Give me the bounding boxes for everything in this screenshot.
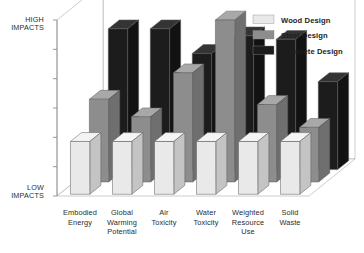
- category-label-4-line1: Water: [196, 208, 216, 217]
- legend-swatch-wood: [253, 15, 274, 24]
- bar-6-wood-side: [300, 133, 311, 195]
- bar-1-wood-side: [90, 133, 101, 195]
- category-label-2-line2: Warming: [107, 218, 137, 227]
- bar-4-wood-side: [216, 133, 227, 195]
- category-label-3-line1: Air: [159, 208, 169, 217]
- category-label-5-line3: Use: [241, 227, 254, 236]
- bar-2-wood-side: [132, 133, 143, 195]
- category-label-2-line3: Potential: [107, 227, 137, 236]
- category-label-1-line1: Embodied: [63, 208, 97, 217]
- category-label-5-line2: Resource: [232, 218, 264, 227]
- bar-6-steel-side: [319, 119, 330, 182]
- bar-1-wood-front: [70, 141, 89, 194]
- bar-6-concrete-side: [338, 73, 349, 170]
- bar-3-wood-front: [154, 141, 173, 194]
- category-label-2-line1: Global: [111, 208, 133, 217]
- bar-3-wood-side: [174, 133, 185, 195]
- chart-3d-bar-impacts: HIGHIMPACTSLOWIMPACTSEmbodiedEnergyGloba…: [0, 0, 364, 253]
- chart-canvas: HIGHIMPACTSLOWIMPACTSEmbodiedEnergyGloba…: [0, 0, 364, 253]
- category-label-6-line2: Waste: [279, 218, 300, 227]
- bar-6-wood-front: [280, 141, 299, 194]
- category-label-1-line2: Energy: [68, 218, 92, 227]
- bar-5-wood-side: [258, 133, 269, 195]
- axis-label-low-line2: IMPACTS: [11, 191, 44, 200]
- bar-4-wood-front: [196, 141, 215, 194]
- axis-label-high-line2: IMPACTS: [11, 23, 44, 32]
- legend-swatch-concrete: [253, 46, 274, 55]
- legend-swatch-steel: [253, 31, 274, 40]
- category-label-4-line2: Toxicity: [193, 218, 218, 227]
- bar-5-wood-front: [238, 141, 257, 194]
- category-label-3-line2: Toxicity: [151, 218, 176, 227]
- legend-label-wood: Wood Design: [281, 16, 331, 25]
- category-label-5-line1: Weighted: [232, 208, 264, 217]
- category-label-6-line1: Solid: [282, 208, 299, 217]
- bar-2-wood-front: [112, 141, 131, 194]
- legend-label-concrete: Concrete Design: [281, 47, 343, 56]
- legend-label-steel: Steel Design: [281, 31, 328, 40]
